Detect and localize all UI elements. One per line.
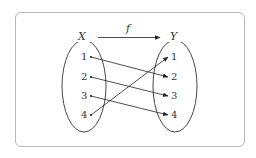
domain-element-1: 1	[81, 51, 87, 62]
codomain-element-1: 1	[171, 51, 177, 62]
function-label: f	[125, 22, 132, 35]
codomain-element-3: 3	[171, 90, 177, 101]
mapping-arrow-4-to-1	[91, 57, 168, 115]
domain-element-2: 2	[81, 71, 87, 82]
domain-element-3: 3	[81, 90, 87, 101]
codomain-element-4: 4	[171, 109, 177, 120]
domain-label: X	[77, 30, 87, 43]
codomain-element-2: 2	[171, 71, 177, 82]
function-mapping-diagram: X Y f 1 2 3 4 1 2 3 4	[0, 0, 256, 158]
domain-element-4: 4	[81, 109, 87, 120]
